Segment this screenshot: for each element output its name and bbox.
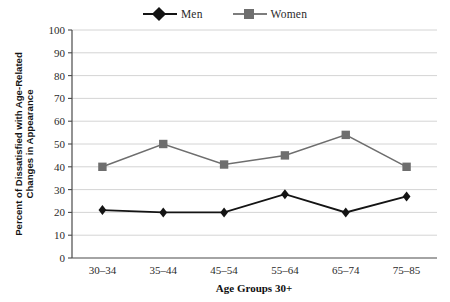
x-tick-label: 55–64 [271, 264, 299, 276]
series-line-women [102, 135, 406, 167]
series-line-men [102, 194, 406, 212]
data-point-women-5 [402, 163, 410, 171]
y-tick-label: 100 [49, 24, 66, 36]
data-point-men-5 [403, 191, 411, 201]
y-tick-label: 20 [54, 206, 66, 218]
y-tick-label: 0 [60, 252, 66, 264]
y-tick-label: 50 [54, 138, 66, 150]
data-point-women-2 [220, 160, 228, 168]
data-point-men-0 [99, 205, 107, 215]
y-tick-label: 30 [54, 184, 66, 196]
data-point-women-3 [281, 151, 289, 159]
y-axis-title-line1: Percent of Dissatisfied with Age-Related [13, 52, 24, 236]
y-axis-title-line2: Changes in Appearance [24, 90, 35, 199]
x-tick-label: 75–85 [393, 264, 421, 276]
chart-container: Men Women 0102030405060708090100 30–3435… [0, 0, 450, 302]
data-point-men-1 [159, 207, 167, 217]
data-point-men-2 [220, 207, 228, 217]
x-tick-label: 30–34 [89, 264, 117, 276]
x-tick-label: 35–44 [150, 264, 178, 276]
y-tick-label: 60 [54, 115, 66, 127]
plot-area-wrapper: 0102030405060708090100 30–3435–4445–5455… [0, 0, 450, 302]
data-point-men-3 [281, 189, 289, 199]
y-tick-label: 70 [54, 92, 66, 104]
y-tick-label: 40 [54, 161, 66, 173]
x-tick-label: 65–74 [332, 264, 360, 276]
y-tick-label: 10 [54, 229, 66, 241]
y-tick-label: 90 [54, 47, 66, 59]
x-axis-title: Age Groups 30+ [216, 282, 292, 294]
y-axis-ticks-group: 0102030405060708090100 [49, 24, 73, 264]
x-tick-label: 45–54 [210, 264, 238, 276]
data-point-women-0 [98, 163, 106, 171]
data-point-women-4 [342, 131, 350, 139]
data-point-women-1 [159, 140, 167, 148]
gridlines-group [72, 30, 437, 235]
y-tick-label: 80 [54, 70, 66, 82]
x-axis-ticks-group: 30–3435–4445–5455–6465–7475–85 [89, 264, 421, 276]
line-chart-svg: 0102030405060708090100 30–3435–4445–5455… [0, 0, 450, 302]
data-point-men-4 [342, 207, 350, 217]
